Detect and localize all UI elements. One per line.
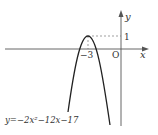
vertex-y-label: 1 xyxy=(124,32,130,42)
y-axis-label: y xyxy=(124,11,131,22)
x-axis-label: x xyxy=(140,49,146,60)
y-axis-arrow-icon xyxy=(119,10,124,17)
graph-canvas: y x O 1 −3 y=−2x²−12x−17 xyxy=(0,0,158,135)
vertex-x-label: −3 xyxy=(80,50,94,60)
equation-label: y=−2x²−12x−17 xyxy=(4,115,79,125)
origin-label: O xyxy=(112,50,119,60)
